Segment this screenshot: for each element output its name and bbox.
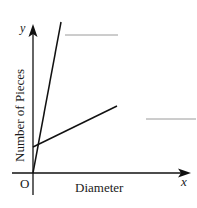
- x-axis-title: Diameter: [75, 180, 124, 195]
- diagram-canvas: y x O Diameter Number of Pieces: [0, 0, 197, 208]
- y-axis-letter: y: [19, 21, 26, 35]
- origin-label: O: [20, 176, 29, 191]
- shallow-line: [33, 106, 117, 147]
- x-axis-letter: x: [180, 174, 187, 189]
- steep-line: [33, 22, 61, 173]
- y-axis-title: Number of Pieces: [12, 69, 27, 162]
